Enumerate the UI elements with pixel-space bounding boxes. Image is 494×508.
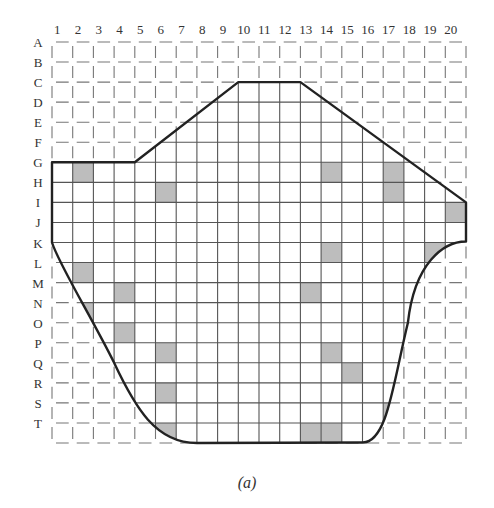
column-label: 12 — [279, 22, 292, 37]
row-label: R — [34, 376, 43, 391]
column-label: 16 — [361, 22, 375, 37]
row-label: N — [33, 296, 43, 311]
grid-diagram: 1234567891011121314151617181920 ABCDEFGH… — [0, 0, 494, 470]
row-label: T — [34, 416, 42, 431]
shaded-cell — [156, 383, 177, 403]
column-label: 3 — [96, 22, 103, 37]
row-label: P — [34, 336, 41, 351]
shaded-cell — [73, 162, 94, 182]
row-labels: ABCDEFGHIJKLMNOPQRST — [32, 35, 44, 431]
row-label: B — [34, 55, 43, 70]
row-label: F — [34, 135, 41, 150]
column-label: 11 — [258, 22, 271, 37]
column-label: 2 — [75, 22, 82, 37]
row-label: D — [33, 95, 42, 110]
shaded-cell — [321, 162, 342, 182]
column-label: 18 — [403, 22, 416, 37]
column-label: 19 — [423, 22, 436, 37]
column-label: 1 — [54, 22, 61, 37]
column-label: 6 — [158, 22, 165, 37]
column-label: 13 — [299, 22, 312, 37]
column-label: 20 — [444, 22, 457, 37]
column-label: 4 — [116, 22, 123, 37]
shaded-cell — [156, 423, 177, 443]
row-label: C — [34, 75, 43, 90]
row-label: Q — [33, 356, 43, 371]
row-label: E — [34, 115, 42, 130]
shaded-cell — [321, 243, 342, 263]
row-label: S — [34, 396, 41, 411]
shaded-cell — [114, 283, 135, 303]
shaded-cell — [445, 202, 466, 222]
row-label: O — [33, 316, 42, 331]
column-labels: 1234567891011121314151617181920 — [54, 22, 457, 37]
row-label: M — [32, 276, 44, 291]
row-label: A — [33, 35, 43, 50]
solid-grid-inside — [52, 42, 466, 443]
shaded-cell — [156, 182, 177, 202]
shaded-cell — [114, 323, 135, 343]
column-label: 15 — [341, 22, 354, 37]
row-label: H — [33, 175, 42, 190]
shaded-cell — [425, 243, 446, 263]
shaded-cell — [73, 263, 94, 283]
shape-interior — [0, 0, 494, 470]
column-label: 8 — [199, 22, 206, 37]
row-label: J — [35, 215, 40, 230]
row-label: L — [34, 256, 42, 271]
shaded-cell — [321, 423, 342, 443]
shaded-cell — [156, 343, 177, 363]
shaded-cell — [300, 423, 321, 443]
shaded-cell — [300, 283, 321, 303]
shaded-cell — [383, 162, 404, 182]
shaded-cell — [321, 343, 342, 363]
column-label: 17 — [382, 22, 396, 37]
column-label: 14 — [320, 22, 334, 37]
row-label: G — [33, 155, 42, 170]
column-label: 10 — [237, 22, 250, 37]
column-label: 7 — [178, 22, 185, 37]
figure-caption: (a) — [0, 474, 494, 492]
shaded-cell — [342, 363, 363, 383]
shaded-cell — [383, 182, 404, 202]
row-label: K — [33, 236, 43, 251]
column-label: 9 — [220, 22, 227, 37]
row-label: I — [36, 195, 40, 210]
column-label: 5 — [137, 22, 144, 37]
